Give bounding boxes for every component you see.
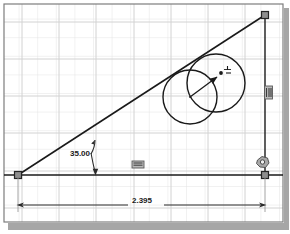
- grid: [4, 4, 283, 222]
- horizontal-constraint-icon[interactable]: [132, 161, 144, 168]
- angle-dimension-value[interactable]: 35.00: [70, 150, 90, 158]
- vertex-origin-handle[interactable]: [15, 172, 22, 179]
- length-dimension-value[interactable]: 2.395: [132, 197, 152, 205]
- vertex-top-handle[interactable]: [262, 12, 269, 19]
- cad-sketch-window[interactable]: 35.00 2.395: [0, 0, 290, 234]
- vertical-constraint-icon[interactable]: [265, 86, 273, 99]
- vertex-corner-handle[interactable]: [262, 172, 269, 179]
